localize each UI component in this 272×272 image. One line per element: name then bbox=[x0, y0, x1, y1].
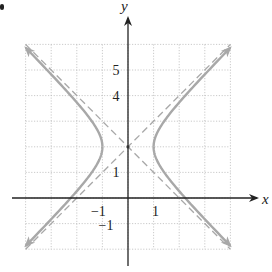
hyperbola-right-branch-upper bbox=[154, 48, 231, 147]
y-tick-label: 5 bbox=[113, 63, 120, 78]
hyperbola-figure: xy541−1−11 bbox=[0, 0, 272, 272]
y-axis-label: y bbox=[119, 0, 128, 14]
hyperbola-left-branch-upper bbox=[26, 48, 103, 147]
y-tick-label: 4 bbox=[113, 89, 120, 104]
plot-area: xy541−1−11 bbox=[0, 0, 272, 272]
y-tick-label: 1 bbox=[113, 165, 120, 180]
y-tick-label: −1 bbox=[99, 218, 114, 233]
x-tick-label: 1 bbox=[152, 204, 159, 219]
x-tick-label: −1 bbox=[91, 204, 106, 219]
hyperbola-left-branch-lower bbox=[26, 147, 103, 246]
axes bbox=[12, 18, 257, 266]
hyperbola-right-branch-lower bbox=[154, 147, 231, 246]
x-axis-label: x bbox=[261, 191, 269, 207]
figure-bullet-mark bbox=[0, 4, 4, 10]
